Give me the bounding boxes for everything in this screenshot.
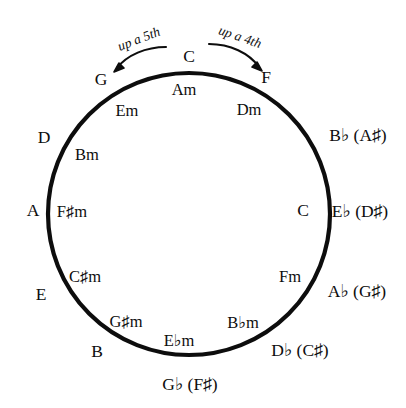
major-key-a-flat: A♭ (G♯) — [328, 283, 386, 301]
major-key-a: A — [27, 202, 40, 220]
major-key-g-flat: G♭ (F♯) — [162, 376, 217, 394]
major-key-d-flat: D♭ (C♯) — [271, 342, 328, 360]
minor-key-e-flat-m: E♭m — [164, 333, 195, 350]
circle-of-fifths-diagram: up a 5th up a 4th C F B♭ (A♯) E♭ (D♯) A♭… — [0, 0, 406, 408]
major-key-f: F — [261, 69, 271, 87]
major-key-e-flat: E♭ (D♯) — [332, 203, 388, 221]
major-key-e: E — [36, 286, 47, 304]
minor-key-c-sharp-m: C♯m — [69, 269, 101, 286]
major-key-c: C — [183, 48, 195, 66]
minor-key-g-sharp-m: G♯m — [110, 314, 143, 331]
major-key-b-flat: B♭ (A♯) — [329, 127, 386, 145]
minor-key-b-flat-m: B♭m — [227, 315, 259, 332]
inner-major-key-c: C — [297, 202, 309, 220]
main-circle — [48, 73, 330, 355]
minor-key-am: Am — [172, 82, 197, 99]
minor-key-f-sharp-m: F♯m — [57, 204, 87, 221]
minor-key-bm: Bm — [75, 147, 99, 164]
major-key-d: D — [38, 129, 51, 147]
minor-key-dm: Dm — [237, 102, 262, 119]
major-key-g: G — [95, 71, 108, 89]
minor-key-em: Em — [116, 103, 139, 120]
minor-key-fm: Fm — [279, 269, 301, 286]
major-key-b: B — [91, 343, 103, 361]
